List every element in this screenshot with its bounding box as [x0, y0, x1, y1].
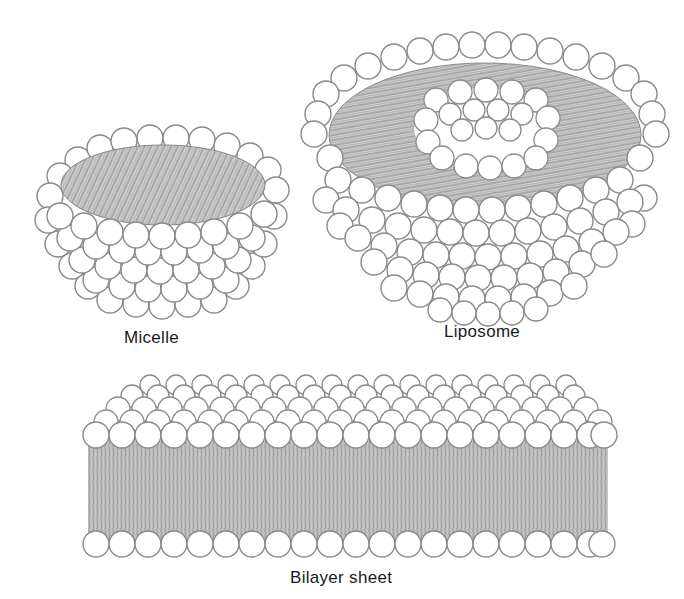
micelle-label: Micelle: [124, 328, 179, 348]
liposome-label: Liposome: [444, 322, 520, 342]
bilayer-sheet-label: Bilayer sheet: [290, 568, 392, 588]
lipid-structures-figure: [0, 0, 684, 599]
liposome-structure: [301, 32, 669, 326]
bilayer-sheet-structure: [83, 375, 617, 557]
micelle-structure: [35, 125, 289, 319]
